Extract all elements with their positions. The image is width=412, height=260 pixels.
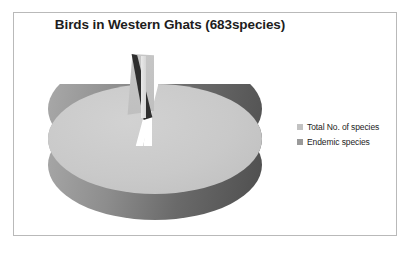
legend-item-endemic-species[interactable]: Endemic species [297,137,395,147]
pie-slice-total-species[interactable] [48,84,262,194]
pie-slice-endemic-species[interactable] [114,54,154,120]
legend-item-total-species[interactable]: Total No. of species [297,122,395,132]
chart-title: Birds in Western Ghats (683species) [20,17,320,32]
chart-legend: Total No. of species Endemic species [297,122,395,152]
legend-label-total-species: Total No. of species [307,122,379,132]
legend-swatch-icon-endemic-species [297,139,303,145]
pie-chart-figure: Birds in Western Ghats (683species) Tota… [0,0,412,260]
pie-slice-endemic-edge-highlight [141,56,146,118]
pie-plot-area [36,52,281,217]
legend-label-endemic-species: Endemic species [307,137,370,147]
legend-swatch-icon-total-species [297,124,303,130]
